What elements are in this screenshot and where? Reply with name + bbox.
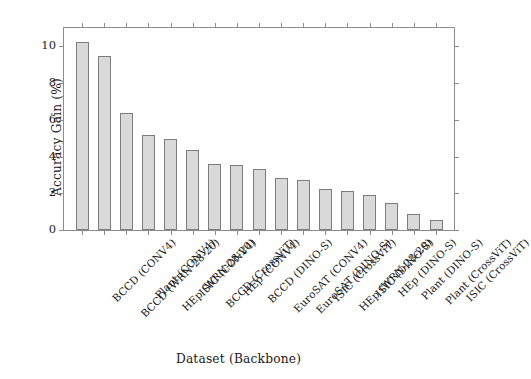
bar-slot xyxy=(115,28,137,230)
bar[interactable] xyxy=(341,191,354,230)
y-axis-tick xyxy=(59,46,64,47)
y-axis-tick-right xyxy=(454,193,459,194)
x-axis-tick xyxy=(414,230,415,235)
y-axis-tick xyxy=(59,83,64,84)
bar-slot xyxy=(314,28,336,230)
y-axis-title: Accuracy Gain (%) xyxy=(50,32,64,242)
bar-slot xyxy=(270,28,292,230)
bar[interactable] xyxy=(363,195,376,230)
y-axis-tick-right xyxy=(454,157,459,158)
bar-slot xyxy=(93,28,115,230)
bar[interactable] xyxy=(230,165,243,230)
x-axis-tick-top xyxy=(303,23,304,28)
x-axis-tick xyxy=(104,230,105,235)
x-axis-tick xyxy=(259,230,260,235)
bar-slot xyxy=(137,28,159,230)
x-axis-tick xyxy=(370,230,371,235)
y-axis-tick-label: 2 xyxy=(49,188,56,200)
x-axis-tick xyxy=(148,230,149,235)
bar-slot xyxy=(204,28,226,230)
x-axis-tick-top xyxy=(215,23,216,28)
y-axis-tick-label: 0 xyxy=(49,224,56,236)
bar-slot xyxy=(226,28,248,230)
y-axis-tick-label: 8 xyxy=(49,77,56,89)
x-axis-tick-top xyxy=(126,23,127,28)
bar[interactable] xyxy=(275,178,288,230)
bar-slot xyxy=(292,28,314,230)
bar[interactable] xyxy=(253,169,266,230)
bar[interactable] xyxy=(142,135,155,230)
bar[interactable] xyxy=(186,150,199,230)
bar[interactable] xyxy=(297,180,310,230)
y-axis-tick xyxy=(59,120,64,121)
y-axis-tick-right xyxy=(454,120,459,121)
y-axis-tick-label: 10 xyxy=(41,41,56,53)
x-axis-tick xyxy=(215,230,216,235)
x-axis-tick-labels: BCCD (CONV4)BCCD (WRN-28-20)Plant (CONV4… xyxy=(63,236,455,346)
bar[interactable] xyxy=(407,214,420,230)
bar-series xyxy=(64,28,454,230)
x-axis-tick xyxy=(325,230,326,235)
bar[interactable] xyxy=(319,189,332,230)
bar-slot xyxy=(403,28,425,230)
y-axis-tick-right xyxy=(454,83,459,84)
bar-slot xyxy=(381,28,403,230)
y-axis-tick xyxy=(59,157,64,158)
bar-slot xyxy=(359,28,381,230)
x-axis-tick-top xyxy=(370,23,371,28)
bar[interactable] xyxy=(208,164,221,230)
plot-area: 0246810 xyxy=(63,27,455,231)
x-axis-tick-top xyxy=(436,23,437,28)
bar[interactable] xyxy=(164,139,177,230)
x-axis-tick xyxy=(281,230,282,235)
bar[interactable] xyxy=(385,203,398,230)
bar[interactable] xyxy=(76,42,89,230)
x-axis-tick-top xyxy=(414,23,415,28)
x-axis-tick-top xyxy=(148,23,149,28)
y-axis-tick-right xyxy=(454,46,459,47)
x-axis-tick xyxy=(436,230,437,235)
y-axis-tick xyxy=(59,230,64,231)
x-axis-tick-top xyxy=(171,23,172,28)
x-axis-tick-top xyxy=(392,23,393,28)
x-axis-tick-top xyxy=(281,23,282,28)
bar-slot xyxy=(182,28,204,230)
y-axis-tick-label: 4 xyxy=(49,151,56,163)
bar-slot xyxy=(248,28,270,230)
x-axis-tick-top xyxy=(259,23,260,28)
bar-slot xyxy=(337,28,359,230)
x-axis-tick-top xyxy=(237,23,238,28)
x-axis-tick xyxy=(392,230,393,235)
bar[interactable] xyxy=(98,56,111,230)
x-axis-tick-top xyxy=(82,23,83,28)
y-axis-tick-label: 6 xyxy=(49,114,56,126)
x-axis-tick xyxy=(82,230,83,235)
bar[interactable] xyxy=(430,220,443,230)
x-axis-tick-top xyxy=(347,23,348,28)
bar-slot xyxy=(425,28,447,230)
x-axis-tick xyxy=(237,230,238,235)
x-axis-tick-top xyxy=(193,23,194,28)
bar-slot xyxy=(71,28,93,230)
bar[interactable] xyxy=(120,113,133,230)
x-axis-tick xyxy=(347,230,348,235)
x-axis-tick xyxy=(303,230,304,235)
x-axis-tick xyxy=(193,230,194,235)
y-axis-tick-right xyxy=(454,230,459,231)
x-axis-tick xyxy=(171,230,172,235)
y-axis-tick xyxy=(59,193,64,194)
bar-slot xyxy=(160,28,182,230)
x-axis-tick-top xyxy=(325,23,326,28)
x-axis-title: Dataset (Backbone) xyxy=(0,352,477,366)
x-axis-tick-top xyxy=(104,23,105,28)
x-axis-tick xyxy=(126,230,127,235)
